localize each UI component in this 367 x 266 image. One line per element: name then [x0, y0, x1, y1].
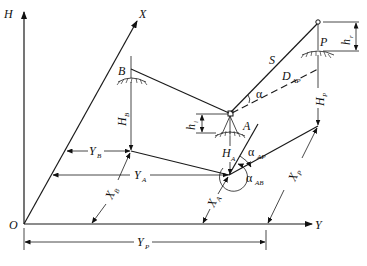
coord-yp-label: Y: [137, 235, 145, 249]
coord-ya-label: Y: [134, 168, 142, 182]
svg-text:P: P: [321, 92, 329, 98]
target-height-label: h: [339, 39, 353, 45]
svg-text:B: B: [97, 152, 102, 160]
h-axis: H: [3, 7, 24, 224]
slope-distance-label: S: [269, 53, 275, 67]
svg-text:AP: AP: [256, 153, 266, 161]
azimuth-ap-label: α: [248, 145, 255, 159]
point-a-label: A: [242, 119, 251, 133]
svg-text:r: r: [347, 35, 355, 38]
point-b-label: B: [118, 64, 126, 78]
coordinate-dimensions: Y B Y A X B X A X P Y P: [24, 128, 317, 251]
h-axis-label: H: [3, 7, 14, 21]
y-axis-label: Y: [315, 218, 323, 232]
survey-diagram: H X Y O B H B: [0, 0, 367, 266]
point-p-label: P: [319, 35, 328, 49]
svg-text:P: P: [144, 243, 150, 251]
origin-label: O: [9, 218, 18, 232]
point-p: P h r H P: [301, 20, 359, 125]
point-b: B H B: [115, 56, 147, 150]
svg-text:A: A: [230, 155, 236, 163]
svg-text:AB: AB: [254, 179, 264, 187]
vertical-angle-label: α: [256, 87, 263, 101]
x-axis-label: X: [138, 7, 147, 21]
vertical-angle-arc: [248, 95, 250, 103]
horizontal-distance-label: D: [281, 69, 291, 83]
horizontal-distance-line: [232, 69, 318, 113]
instrument-height-label: h: [184, 124, 198, 130]
coord-yb-label: Y: [89, 144, 97, 158]
azimuth-ab-label: α: [246, 171, 253, 185]
svg-text:AP: AP: [291, 77, 301, 85]
y-axis: Y: [24, 218, 323, 232]
slope-distance-line: [231, 24, 317, 112]
point-a-station: A h i H A: [184, 111, 251, 174]
svg-text:i: i: [192, 121, 200, 123]
sight-lines: S D AP α: [131, 24, 318, 113]
svg-text:B: B: [123, 112, 131, 117]
svg-text:A: A: [141, 176, 147, 184]
